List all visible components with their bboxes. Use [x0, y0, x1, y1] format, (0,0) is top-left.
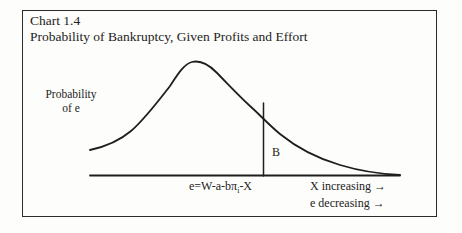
note-e-decreasing: e decreasing → — [310, 196, 385, 210]
chart-title: Probability of Bankruptcy, Given Profits… — [30, 29, 307, 45]
chart-number: Chart 1.4 — [30, 13, 80, 29]
y-axis-label: Probability of e — [32, 88, 110, 115]
threshold-label: e=W-a-bπi-X — [189, 179, 252, 195]
threshold-label-prefix: e=W-a-bπ — [189, 179, 237, 193]
figure-page: Chart 1.4 Probability of Bankruptcy, Giv… — [0, 0, 462, 233]
y-axis-label-line1: Probability — [45, 88, 96, 100]
note-x-increasing: X increasing → — [310, 179, 386, 193]
y-axis-label-line2: of e — [32, 102, 110, 116]
region-label-b: B — [272, 145, 280, 159]
threshold-label-suffix: -X — [239, 179, 252, 193]
